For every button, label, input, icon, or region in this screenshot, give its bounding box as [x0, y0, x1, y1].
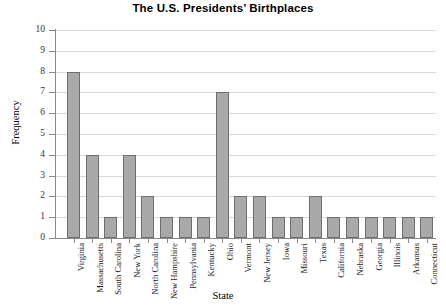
x-axis-category-label: Georgia: [375, 243, 384, 271]
bar: [309, 196, 322, 238]
gridline: [55, 155, 436, 156]
category-label-text: California: [337, 243, 346, 278]
x-axis-category-label: California: [337, 243, 346, 278]
y-axis-tick-label: 1: [5, 212, 45, 222]
category-label-text: South Carolina: [114, 243, 123, 295]
bar: [234, 196, 247, 238]
x-axis-category-label: Illinois: [393, 243, 402, 267]
bar: [327, 217, 340, 238]
plot-area: [55, 30, 436, 238]
bar: [253, 196, 266, 238]
gridline: [55, 176, 436, 177]
gridline: [55, 30, 436, 31]
gridline: [55, 72, 436, 73]
gridline: [55, 92, 436, 93]
bar: [160, 217, 173, 238]
category-label-text: Pennsylvania: [189, 243, 198, 289]
category-label-text: Vermont: [244, 243, 253, 273]
bar: [365, 217, 378, 238]
bar: [402, 217, 415, 238]
category-label-text: North Carolina: [151, 243, 160, 295]
category-label-text: Iowa: [282, 243, 291, 260]
x-axis-category-label: Texas: [319, 243, 328, 263]
y-axis-line: [55, 29, 56, 239]
x-axis-tick: [241, 239, 242, 243]
bar: [216, 92, 229, 238]
category-label-text: Massachusetts: [96, 243, 105, 293]
bar: [123, 155, 136, 238]
x-axis-tick: [297, 239, 298, 243]
x-axis-tick: [74, 239, 75, 243]
x-axis-category-label: South Carolina: [114, 243, 123, 295]
bar: [104, 217, 117, 238]
x-axis-category-label: Massachusetts: [96, 243, 105, 293]
x-axis-category-label: Virginia: [77, 243, 86, 271]
x-axis-category-label: New Jersey: [263, 243, 272, 283]
x-axis-category-label: Pennsylvania: [189, 243, 198, 289]
y-axis-tick: [49, 92, 55, 93]
y-axis-tick: [49, 72, 55, 73]
category-label-text: Texas: [319, 243, 328, 263]
y-axis-tick: [49, 217, 55, 218]
x-axis-tick: [408, 239, 409, 243]
x-axis-tick: [148, 239, 149, 243]
bar: [346, 217, 359, 238]
y-axis-title: Frequency: [10, 73, 21, 173]
x-axis-category-label: Nebraska: [356, 243, 365, 275]
bar: [272, 217, 285, 238]
chart-title: The U.S. Presidents’ Birthplaces: [0, 2, 446, 14]
gridline: [55, 113, 436, 114]
y-axis-tick-label: 9: [5, 46, 45, 56]
x-axis-category-label: Connecticut: [430, 243, 439, 285]
category-label-text: New Jersey: [263, 243, 272, 283]
category-label-text: Arkansas: [412, 243, 421, 275]
bar: [383, 217, 396, 238]
bar-chart: The U.S. Presidents’ Birthplaces 0123456…: [0, 0, 446, 305]
category-label-text: New York: [133, 243, 142, 278]
y-axis-tick-label: 10: [5, 25, 45, 35]
x-axis-tick: [204, 239, 205, 243]
bar: [179, 217, 192, 238]
y-axis-tick: [49, 51, 55, 52]
y-axis-tick-label: 0: [5, 233, 45, 243]
x-axis-tick: [334, 239, 335, 243]
x-axis-category-label: Vermont: [244, 243, 253, 273]
x-axis-title: State: [0, 290, 446, 301]
bar: [141, 196, 154, 238]
x-axis-tick: [315, 239, 316, 243]
x-axis-category-label: Ohio: [226, 243, 235, 260]
bar: [86, 155, 99, 238]
x-axis-tick: [371, 239, 372, 243]
gridline: [55, 134, 436, 135]
category-label-text: Ohio: [226, 243, 235, 260]
x-axis-tick: [390, 239, 391, 243]
x-axis-tick: [185, 239, 186, 243]
x-axis-tick: [259, 239, 260, 243]
y-axis-tick: [49, 30, 55, 31]
y-axis-tick: [49, 176, 55, 177]
x-axis-category-label: Iowa: [282, 243, 291, 260]
x-axis-tick: [427, 239, 428, 243]
y-axis-tick: [49, 113, 55, 114]
category-label-text: Virginia: [77, 243, 86, 271]
x-axis-category-label: Arkansas: [412, 243, 421, 275]
y-axis-tick: [49, 238, 55, 239]
x-axis-category-label: New York: [133, 243, 142, 278]
category-label-text: Nebraska: [356, 243, 365, 275]
bar: [67, 72, 80, 238]
y-axis-tick: [49, 155, 55, 156]
y-axis-tick-label: 2: [5, 191, 45, 201]
x-axis-tick: [92, 239, 93, 243]
category-label-text: Missouri: [300, 243, 309, 274]
x-axis-line: [55, 238, 436, 239]
x-axis-tick: [278, 239, 279, 243]
category-label-text: Connecticut: [430, 243, 439, 285]
x-axis-category-label: North Carolina: [151, 243, 160, 295]
bar: [290, 217, 303, 238]
y-axis-tick: [49, 134, 55, 135]
x-axis-category-label: Missouri: [300, 243, 309, 274]
y-axis-tick: [49, 196, 55, 197]
category-label-text: Illinois: [393, 243, 402, 267]
x-axis-tick: [167, 239, 168, 243]
x-axis-tick: [352, 239, 353, 243]
